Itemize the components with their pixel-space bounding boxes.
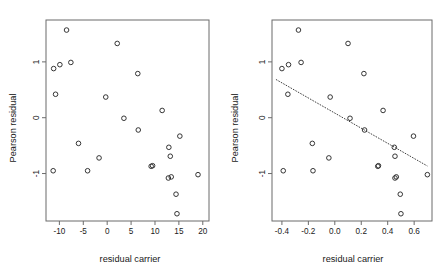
data-point xyxy=(168,154,173,159)
right-tick-marks xyxy=(268,62,414,225)
left-y-tick-labels: 10-1 xyxy=(32,59,41,177)
y-tick-label: -1 xyxy=(32,169,41,177)
data-point xyxy=(69,60,74,65)
data-point xyxy=(167,145,172,150)
left-x-tick-labels: -10-505101520 xyxy=(53,227,207,236)
data-point xyxy=(286,62,291,67)
data-point xyxy=(348,116,353,121)
y-tick-label: -1 xyxy=(258,169,267,177)
data-point xyxy=(178,134,183,139)
x-tick-label: 0.2 xyxy=(356,227,368,236)
left-plot-frame xyxy=(46,20,209,221)
data-point xyxy=(280,66,285,71)
left-tick-marks xyxy=(42,62,203,225)
x-tick-label: -0.2 xyxy=(301,227,316,236)
data-point xyxy=(174,192,179,197)
data-point xyxy=(122,116,127,121)
data-point xyxy=(103,95,108,100)
data-point xyxy=(394,175,399,180)
data-point xyxy=(135,71,140,76)
x-tick-label: 10 xyxy=(150,227,160,236)
data-point xyxy=(64,28,69,33)
data-point xyxy=(160,108,165,113)
x-tick-label: 0 xyxy=(105,227,110,236)
data-point xyxy=(399,211,404,216)
plot-box xyxy=(46,20,209,221)
plot-box xyxy=(272,20,432,221)
data-point xyxy=(425,172,430,177)
right-regression-line xyxy=(276,79,427,166)
data-point xyxy=(136,128,141,133)
data-point xyxy=(51,168,56,173)
data-point xyxy=(381,108,386,113)
y-tick-label: 1 xyxy=(32,59,41,64)
data-point xyxy=(392,145,397,150)
left-data-points xyxy=(51,28,200,216)
x-tick-label: -0.4 xyxy=(275,227,290,236)
data-point xyxy=(196,172,201,177)
right-y-axis-title: Pearson residual xyxy=(230,94,240,163)
x-tick-label: 0.4 xyxy=(382,227,394,236)
data-point xyxy=(97,156,102,161)
data-point xyxy=(362,71,367,76)
data-point xyxy=(166,176,171,181)
right-x-tick-labels: -0.4-0.20.00.20.40.6 xyxy=(275,227,420,236)
data-point xyxy=(281,168,286,173)
x-tick-label: 15 xyxy=(174,227,184,236)
data-point xyxy=(311,168,316,173)
left-x-axis-title: residual carrier xyxy=(100,254,161,264)
right-data-points xyxy=(280,28,430,216)
data-point xyxy=(393,154,398,159)
data-point xyxy=(296,28,301,33)
x-tick-label: -5 xyxy=(80,227,88,236)
y-tick-label: 0 xyxy=(258,115,267,120)
data-point xyxy=(327,156,332,161)
data-point xyxy=(175,211,180,216)
data-point xyxy=(346,41,351,46)
left-y-axis-title: Pearson residual xyxy=(8,94,18,163)
data-point xyxy=(411,134,416,139)
data-point xyxy=(53,92,58,97)
data-point xyxy=(328,95,333,100)
x-tick-label: 5 xyxy=(129,227,134,236)
x-tick-label: 0.6 xyxy=(408,227,420,236)
data-point xyxy=(51,66,56,71)
data-point xyxy=(398,192,403,197)
scatter-plot-figure: -10-505101520 10-1 residual carrier Pear… xyxy=(0,0,443,272)
right-scatter-panel: -0.4-0.20.00.20.40.6 10-1 residual carri… xyxy=(221,0,443,272)
data-point xyxy=(76,141,81,146)
data-point xyxy=(310,141,315,146)
data-point xyxy=(299,60,304,65)
right-x-axis-title: residual carrier xyxy=(323,254,384,264)
x-tick-label: 20 xyxy=(198,227,208,236)
data-point xyxy=(115,41,120,46)
right-y-tick-labels: 10-1 xyxy=(258,59,267,177)
data-point xyxy=(286,92,291,97)
regression-fit-line xyxy=(276,79,427,166)
x-tick-label: -10 xyxy=(53,227,65,236)
data-point xyxy=(85,168,90,173)
data-point xyxy=(169,175,174,180)
left-scatter-panel: -10-505101520 10-1 residual carrier Pear… xyxy=(0,0,222,272)
y-tick-label: 0 xyxy=(32,115,41,120)
right-plot-frame xyxy=(272,20,432,221)
x-tick-label: 0.0 xyxy=(329,227,341,236)
y-tick-label: 1 xyxy=(258,59,267,64)
data-point xyxy=(58,62,63,67)
